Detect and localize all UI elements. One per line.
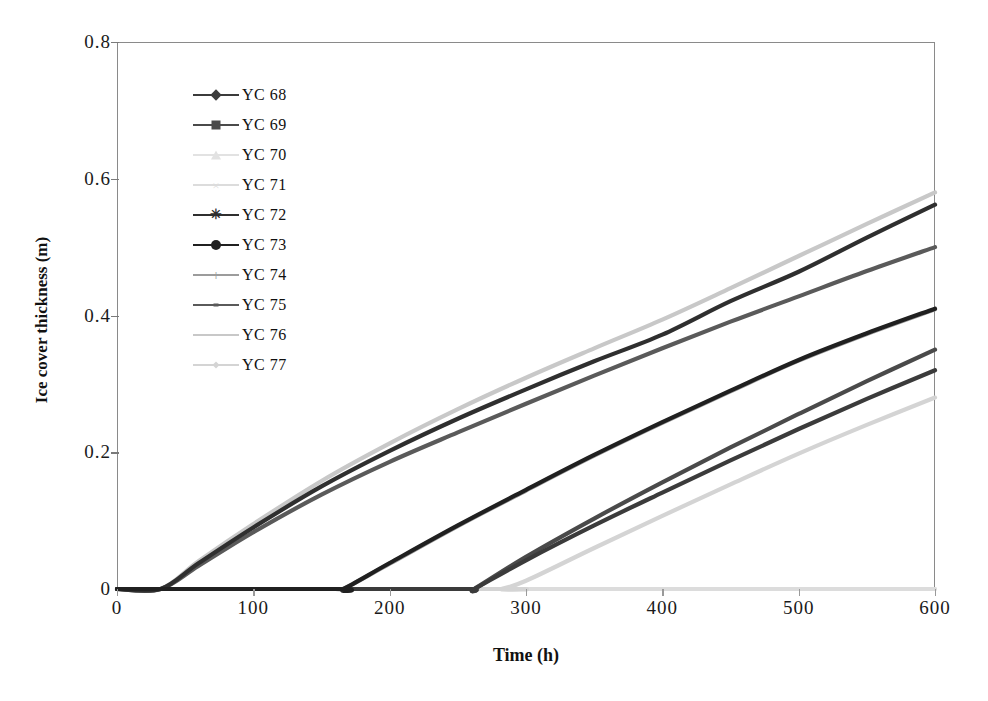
legend-item-yc-68[interactable]: YC 68 bbox=[193, 80, 343, 110]
x-tick-mark bbox=[935, 589, 936, 596]
y-tick-label: 0.2 bbox=[63, 441, 111, 463]
legend-item-yc-74[interactable]: +YC 74 bbox=[193, 260, 343, 290]
y-tick-label: 0.8 bbox=[63, 31, 111, 53]
x-tick-label: 400 bbox=[647, 597, 679, 619]
legend-item-label: YC 68 bbox=[239, 86, 287, 104]
legend-item-yc-76[interactable]: YC 76 bbox=[193, 320, 343, 350]
chart-container: 00.20.40.60.8 0100200300400500600 YC 68Y… bbox=[0, 0, 988, 701]
legend-key-square-icon bbox=[193, 116, 239, 134]
legend-item-yc-73[interactable]: YC 73 bbox=[193, 230, 343, 260]
legend-key-cross-x-icon: × bbox=[193, 176, 239, 194]
legend-item-label: YC 72 bbox=[239, 206, 287, 224]
legend-marker-line-dot-icon bbox=[193, 296, 239, 314]
legend-marker-line-plain-icon bbox=[193, 326, 239, 344]
y-tick-mark bbox=[111, 316, 119, 317]
y-tick-mark bbox=[111, 42, 119, 43]
legend-item-yc-75[interactable]: YC 75 bbox=[193, 290, 343, 320]
x-axis-title: Time (h) bbox=[117, 645, 935, 666]
legend-item-label: YC 77 bbox=[239, 356, 287, 374]
y-tick-mark bbox=[111, 179, 119, 180]
legend-key-triangle-icon bbox=[193, 146, 239, 164]
legend-item-yc-71[interactable]: ×YC 71 bbox=[193, 170, 343, 200]
legend-marker-circle-icon bbox=[193, 236, 239, 254]
x-tick-label: 600 bbox=[919, 597, 951, 619]
legend-item-label: YC 74 bbox=[239, 266, 287, 284]
x-tick-label: 0 bbox=[112, 597, 123, 619]
y-axis-title: Ice cover thickness (m) bbox=[32, 170, 52, 470]
legend-key-line-plain-icon bbox=[193, 326, 239, 344]
chart-legend: YC 68YC 69YC 70×YC 71✳YC 72YC 73+YC 74YC… bbox=[193, 80, 343, 380]
legend-key-star-x-icon: ✳ bbox=[193, 206, 239, 224]
x-tick-mark bbox=[253, 589, 254, 596]
legend-item-label: YC 70 bbox=[239, 146, 287, 164]
y-tick-label: 0.4 bbox=[63, 305, 111, 327]
x-tick-mark bbox=[526, 589, 527, 596]
legend-item-label: YC 71 bbox=[239, 176, 287, 194]
x-axis-tick-labels: 0100200300400500600 bbox=[0, 597, 988, 637]
legend-marker-small-diamond-icon bbox=[193, 356, 239, 374]
x-tick-mark bbox=[662, 589, 663, 596]
legend-item-label: YC 69 bbox=[239, 116, 287, 134]
y-tick-mark bbox=[111, 452, 119, 453]
legend-key-plus-icon: + bbox=[193, 266, 239, 284]
legend-key-circle-icon bbox=[193, 236, 239, 254]
legend-item-label: YC 75 bbox=[239, 296, 287, 314]
legend-item-label: YC 76 bbox=[239, 326, 287, 344]
legend-key-diamond-icon bbox=[193, 86, 239, 104]
legend-marker-cross-x-icon: × bbox=[193, 176, 239, 194]
legend-item-yc-72[interactable]: ✳YC 72 bbox=[193, 200, 343, 230]
legend-marker-star-x-icon: ✳ bbox=[193, 206, 239, 224]
legend-marker-plus-icon: + bbox=[193, 266, 239, 284]
x-tick-mark bbox=[117, 589, 118, 596]
legend-item-yc-77[interactable]: YC 77 bbox=[193, 350, 343, 380]
x-tick-label: 100 bbox=[238, 597, 270, 619]
legend-key-small-diamond-icon bbox=[193, 356, 239, 374]
x-tick-mark bbox=[799, 589, 800, 596]
legend-marker-square-icon bbox=[193, 116, 239, 134]
x-tick-label: 500 bbox=[783, 597, 815, 619]
legend-item-yc-69[interactable]: YC 69 bbox=[193, 110, 343, 140]
legend-marker-triangle-icon bbox=[193, 146, 239, 164]
legend-marker-diamond-icon bbox=[193, 86, 239, 104]
legend-item-yc-70[interactable]: YC 70 bbox=[193, 140, 343, 170]
x-tick-label: 200 bbox=[374, 597, 406, 619]
y-axis-tick-labels: 00.20.40.60.8 bbox=[55, 0, 111, 701]
x-tick-label: 300 bbox=[510, 597, 542, 619]
y-tick-label: 0.6 bbox=[63, 168, 111, 190]
x-tick-mark bbox=[390, 589, 391, 596]
legend-item-label: YC 73 bbox=[239, 236, 287, 254]
legend-key-line-dot-icon bbox=[193, 296, 239, 314]
